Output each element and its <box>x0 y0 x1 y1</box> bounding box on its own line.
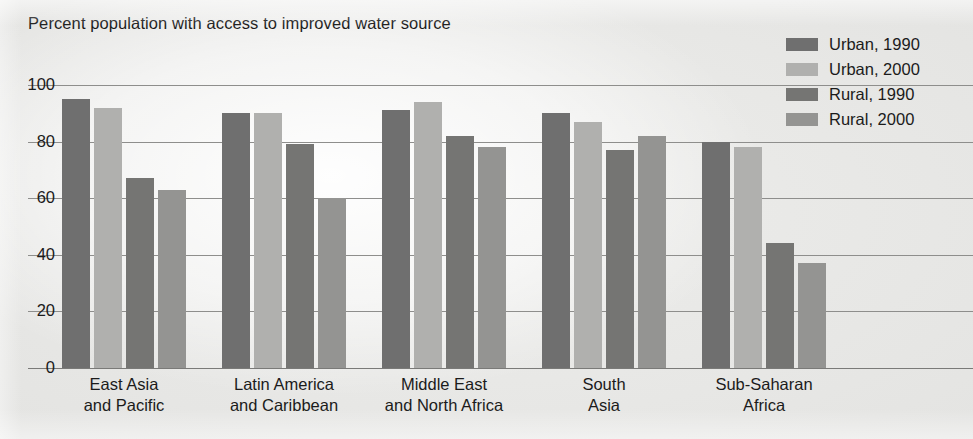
legend-item: Urban, 1990 <box>786 32 966 57</box>
bar <box>798 263 826 368</box>
legend-swatch <box>786 63 818 76</box>
bar <box>702 142 730 368</box>
legend-label: Rural, 2000 <box>829 111 914 128</box>
bar <box>766 243 794 368</box>
category-line-1: Sub-Saharan <box>654 374 874 395</box>
legend-swatch <box>786 113 818 126</box>
legend-label: Urban, 2000 <box>829 61 920 78</box>
chart-title: Percent population with access to improv… <box>28 14 451 33</box>
legend-label: Urban, 1990 <box>829 36 920 53</box>
x-axis-category-labels: East Asiaand PacificLatin Americaand Car… <box>0 374 973 438</box>
legend-item: Rural, 2000 <box>786 107 966 132</box>
bar <box>734 147 762 368</box>
x-axis-category-label: Sub-SaharanAfrica <box>654 374 874 416</box>
legend-swatch <box>786 38 818 51</box>
chart-legend: Urban, 1990Urban, 2000Rural, 1990Rural, … <box>786 32 966 132</box>
legend-item: Rural, 1990 <box>786 82 966 107</box>
legend-item: Urban, 2000 <box>786 57 966 82</box>
legend-swatch <box>786 88 818 101</box>
legend-label: Rural, 1990 <box>829 86 914 103</box>
category-line-2: Africa <box>654 395 874 416</box>
